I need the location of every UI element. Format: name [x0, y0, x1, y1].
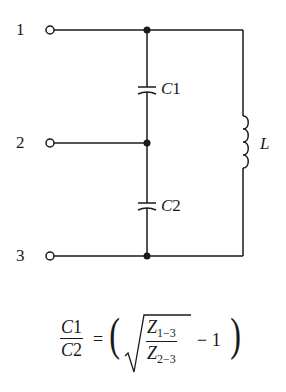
formula-lhs-fraction: C1 C2: [60, 318, 83, 359]
capacitor-c1-label: C1: [161, 80, 181, 97]
junction-node-3: [144, 253, 151, 260]
terminal-1: [46, 26, 54, 34]
formula-lhs-denominator: C2: [60, 341, 83, 359]
formula-lhs-numerator: C1: [60, 318, 83, 336]
terminal-2-label: 2: [16, 134, 25, 151]
circuit-schematic: [0, 0, 286, 392]
inductor-l-label: L: [260, 135, 269, 152]
terminal-3: [46, 252, 54, 260]
formula-z-denominator: Z2−3: [146, 344, 177, 365]
junction-node-2: [144, 140, 151, 147]
formula-minus-one: − 1: [197, 330, 221, 351]
terminal-3-label: 3: [16, 247, 25, 264]
formula-z-fraction: Z1−3 Z2−3: [146, 318, 177, 365]
inductor-l-coil: [243, 116, 248, 168]
formula-equals: =: [93, 329, 103, 350]
junction-node-1: [144, 27, 151, 34]
fraction-bar: [146, 341, 177, 342]
formula-open-paren: (: [109, 312, 120, 358]
formula-z-numerator: Z1−3: [146, 318, 177, 339]
capacitor-c2-label: C2: [161, 197, 181, 214]
terminal-2: [46, 139, 54, 147]
terminal-1-label: 1: [16, 21, 25, 38]
fraction-bar: [60, 338, 83, 339]
formula-close-paren: ): [230, 312, 241, 358]
